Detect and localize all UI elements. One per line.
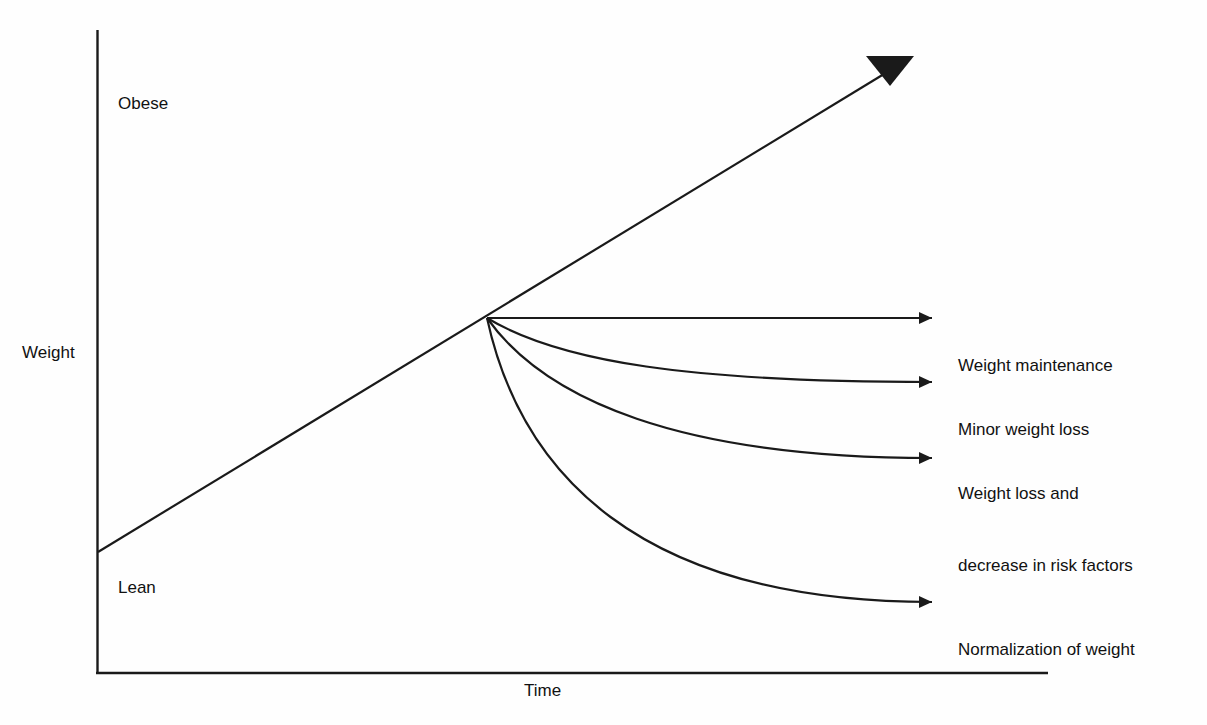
curve-minor-weight-loss bbox=[487, 318, 932, 382]
annotation-normalization-of-weight: Normalization of weight bbox=[958, 590, 1135, 710]
zone-label-lean: Lean bbox=[118, 576, 156, 600]
curve-weight-loss-risk-factors bbox=[487, 318, 932, 458]
baseline-trend-line bbox=[98, 74, 884, 552]
curve-normalization-of-weight bbox=[487, 318, 932, 602]
x-axis-label: Time bbox=[524, 679, 561, 703]
annotation-line: Weight loss and bbox=[958, 482, 1133, 506]
zone-label-obese: Obese bbox=[118, 92, 168, 116]
annotation-line: Normalization of weight bbox=[958, 638, 1135, 662]
y-axis-label: Weight bbox=[22, 341, 75, 365]
weight-trajectory-diagram: Obese Lean Weight Time Weight maintenanc… bbox=[0, 0, 1207, 725]
annotation-line: decrease in risk factors bbox=[958, 554, 1133, 578]
